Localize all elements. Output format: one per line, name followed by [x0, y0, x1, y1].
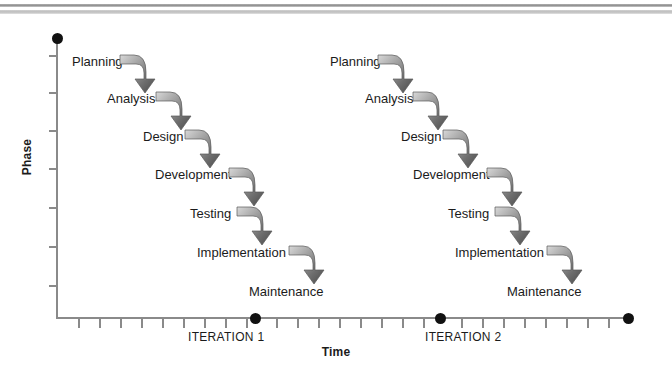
phase-label: Planning: [72, 55, 123, 68]
phase-transition-arrow-icon: [228, 166, 270, 208]
top-rule-primary: [0, 4, 672, 7]
y-axis-tick: [49, 92, 56, 94]
phase-transition-arrow-icon: [236, 205, 278, 247]
phase-label: Analysis: [365, 92, 413, 105]
x-axis-tick: [225, 319, 227, 328]
phase-label: Testing: [190, 207, 231, 220]
x-axis-tick: [360, 319, 362, 328]
phase-transition-arrow-icon: [486, 166, 528, 208]
x-axis-tick: [78, 319, 80, 328]
y-axis-title: Phase: [20, 127, 34, 187]
x-axis-tick: [246, 319, 248, 328]
phase-transition-arrow-icon: [494, 205, 536, 247]
y-axis-tick: [49, 168, 56, 170]
x-axis-tick: [587, 319, 589, 328]
x-axis-tick: [99, 319, 101, 328]
x-axis-tick: [545, 319, 547, 328]
phase-transition-arrow-icon: [546, 244, 588, 286]
phase-transition-arrow-icon: [288, 244, 330, 286]
phase-transition-arrow-icon: [412, 90, 454, 132]
x-axis-marker: [623, 313, 634, 324]
y-axis-tick: [49, 207, 56, 209]
x-axis-tick: [297, 319, 299, 328]
x-axis-tick: [162, 319, 164, 328]
x-axis-tick: [566, 319, 568, 328]
x-axis-tick: [608, 319, 610, 328]
x-axis-tick: [423, 319, 425, 328]
phase-label: Maintenance: [507, 285, 581, 298]
iteration-label: ITERATION 1: [188, 330, 264, 344]
x-axis-tick: [141, 319, 143, 328]
phase-label: Maintenance: [249, 285, 323, 298]
y-axis-tick: [49, 55, 56, 57]
x-axis-tick: [402, 319, 404, 328]
x-axis-tick: [482, 319, 484, 328]
x-axis-tick: [461, 319, 463, 328]
x-axis-tick: [276, 319, 278, 328]
y-axis-origin-marker: [52, 33, 63, 44]
x-axis-tick: [204, 319, 206, 328]
x-axis-tick: [381, 319, 383, 328]
x-axis-marker: [250, 313, 261, 324]
y-axis-tick: [49, 285, 56, 287]
phase-transition-arrow-icon: [442, 128, 484, 170]
phase-label: Design: [401, 130, 441, 143]
phase-transition-arrow-icon: [377, 53, 419, 95]
phase-label: Implementation: [455, 246, 544, 259]
phase-label: Analysis: [107, 92, 155, 105]
phase-label: Development: [413, 168, 490, 181]
waterfall-diagram: Phase Time Planning Analysis Design Deve…: [0, 0, 672, 383]
y-axis-line: [56, 38, 58, 319]
x-axis-tick: [120, 319, 122, 328]
x-axis-tick: [318, 319, 320, 328]
phase-transition-arrow-icon: [184, 128, 226, 170]
x-axis-title: Time: [0, 345, 672, 359]
top-rule-secondary: [0, 10, 672, 14]
phase-label: Testing: [448, 207, 489, 220]
x-axis-tick: [503, 319, 505, 328]
y-axis-tick: [49, 246, 56, 248]
phase-label: Implementation: [197, 246, 286, 259]
phase-label: Planning: [330, 55, 381, 68]
y-axis-tick: [49, 130, 56, 132]
iteration-label: ITERATION 2: [425, 330, 501, 344]
x-axis-tick: [524, 319, 526, 328]
phase-label: Development: [155, 168, 232, 181]
phase-transition-arrow-icon: [119, 53, 161, 95]
x-axis-tick: [183, 319, 185, 328]
x-axis-tick: [339, 319, 341, 328]
x-axis-marker: [435, 313, 446, 324]
phase-transition-arrow-icon: [155, 90, 197, 132]
phase-label: Design: [143, 130, 183, 143]
